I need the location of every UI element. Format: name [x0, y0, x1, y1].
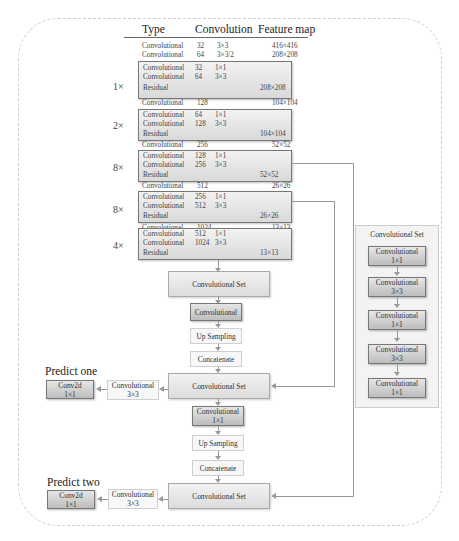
stage-multiplier: 1×	[113, 81, 124, 92]
conv-set-legend: Convolutional Set Convolutional1×1 Convo…	[355, 225, 439, 408]
header-rule	[124, 37, 308, 38]
downsample-row: Convolutional25652×52	[142, 141, 302, 150]
residual-block: Convolutional641×1 Convolutional1283×3 R…	[138, 109, 292, 141]
conv-set-3: Convolutional Set	[168, 483, 270, 509]
downsample-row: Convolutional51226×26	[142, 182, 302, 191]
backbone-row: Convolutional323×3416×416	[142, 42, 302, 51]
stage-multiplier: 8×	[113, 162, 124, 173]
predict-one-label: Predict one	[45, 365, 97, 377]
conv-3x3-2: Convolutional3×3	[108, 489, 158, 509]
backbone-row: Convolutional643×3/2208×208	[142, 51, 302, 60]
header-type: Type	[142, 23, 165, 35]
residual-block: Convolutional2561×1 Convolutional5123×3 …	[138, 191, 292, 223]
conv2d-1: Conv2d1×1	[46, 380, 94, 399]
concat-1: Concatenate	[190, 351, 242, 367]
downsample-row: Convolutional128104×104	[142, 99, 302, 108]
conv2d-2: Conv2d1×1	[47, 490, 95, 509]
header-convolution: Convolution	[195, 23, 253, 35]
stage-multiplier: 8×	[113, 204, 124, 215]
conv-1: Convolutional	[190, 303, 242, 321]
stage-multiplier: 4×	[113, 240, 124, 251]
stage-multiplier: 2×	[113, 120, 124, 131]
concat-2: Concatenate	[192, 460, 244, 476]
conv-3x3-1: Convolutional3×3	[107, 380, 159, 400]
conv-set-2: Convolutional Set	[168, 373, 270, 399]
residual-block: Convolutional321×1 Convolutional643×3 Re…	[138, 61, 292, 99]
residual-block: Convolutional5121×1 Convolutional10243×3…	[138, 228, 292, 260]
predict-two-label: Predict two	[47, 476, 100, 488]
upsample-1: Up Sampling	[190, 328, 242, 344]
conv-1x1: Convolutional1×1	[192, 406, 244, 426]
upsample-2: Up Sampling	[192, 435, 244, 451]
conv-set-1: Convolutional Set	[168, 271, 270, 297]
residual-block: Convolutional1281×1 Convolutional2563×3 …	[138, 150, 292, 182]
header-feature-map: Feature map	[258, 23, 315, 35]
